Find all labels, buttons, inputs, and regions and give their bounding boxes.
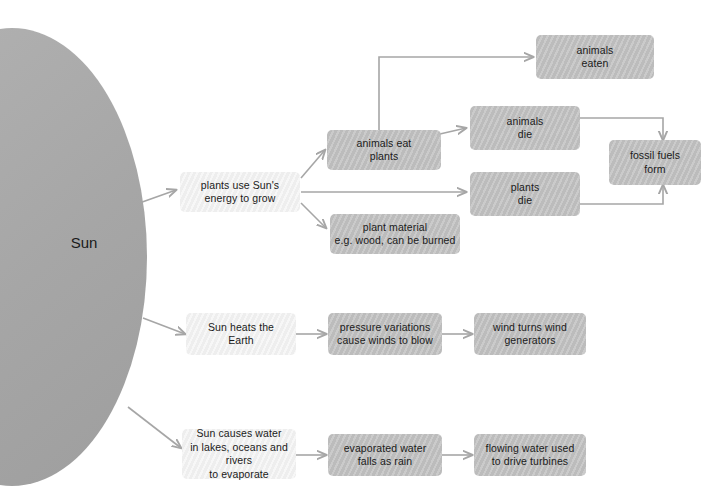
edge-sun-to-heats-earth <box>143 318 185 334</box>
node-animals-eat-plants-line1: animals eat <box>331 137 437 151</box>
node-evaporated-water-line1: evaporated water <box>332 442 438 456</box>
node-plants-die-line2: die <box>474 194 576 208</box>
node-flowing-water-line1: flowing water used <box>478 442 582 456</box>
node-fossil-fuels-form[interactable]: fossil fuels form <box>609 140 701 185</box>
node-animals-eat-plants[interactable]: animals eat plants <box>327 130 441 170</box>
node-animals-die-line1: animals <box>474 115 576 129</box>
sun-label: Sun <box>44 234 124 251</box>
node-plant-material[interactable]: plant material e.g. wood, can be burned <box>330 214 460 254</box>
node-evaporated-water-rain[interactable]: evaporated water falls as rain <box>328 434 442 476</box>
node-plants-die-line1: plants <box>474 181 576 195</box>
node-wind-turns-generators-line2: generators <box>478 334 582 348</box>
node-pressure-variations-line1: pressure variations <box>332 321 438 335</box>
edge-plants-to-plant-material <box>301 203 326 228</box>
node-evaporated-water-line2: falls as rain <box>332 455 438 469</box>
node-sun-heats-earth-line1: Sun heats the <box>190 321 292 335</box>
node-plant-material-line1: plant material <box>334 221 456 235</box>
node-sun-heats-earth[interactable]: Sun heats the Earth <box>186 313 296 355</box>
node-sun-heats-earth-line2: Earth <box>190 334 292 348</box>
edge-plants-die-to-fossil-fuels <box>580 185 663 204</box>
node-sun-causes-water-line3: to evaporate <box>186 468 292 482</box>
node-fossil-fuels-form-line2: form <box>613 163 697 177</box>
node-plants-use-suns-energy[interactable]: plants use Sun's energy to grow <box>180 172 300 212</box>
edge-plants-to-animals-eat <box>301 150 325 178</box>
node-pressure-variations-line2: cause winds to blow <box>332 334 438 348</box>
node-flowing-water-line2: to drive turbines <box>478 455 582 469</box>
edge-sun-to-water <box>128 407 181 448</box>
node-plants-use-suns-energy-line1: plants use Sun's <box>184 179 296 193</box>
node-flowing-water-turbines[interactable]: flowing water used to drive turbines <box>474 434 586 476</box>
node-pressure-variations[interactable]: pressure variations cause winds to blow <box>328 313 442 355</box>
node-animals-eat-plants-line2: plants <box>331 150 437 164</box>
energy-flow-diagram: Sun plants use Sun's energy to grow anim… <box>0 0 710 499</box>
node-animals-eaten-line1: animals <box>540 44 650 58</box>
node-wind-turns-generators-line1: wind turns wind <box>478 321 582 335</box>
node-plants-use-suns-energy-line2: energy to grow <box>184 192 296 206</box>
node-animals-eaten-line2: eaten <box>540 57 650 71</box>
node-sun-causes-water-line1: Sun causes water <box>186 427 292 441</box>
edge-animals-die-to-fossil-fuels <box>580 118 663 140</box>
node-animals-die[interactable]: animals die <box>470 106 580 150</box>
node-sun-causes-water-line2: in lakes, oceans and rivers <box>186 441 292 468</box>
node-animals-die-line2: die <box>474 128 576 142</box>
node-animals-eaten[interactable]: animals eaten <box>536 35 654 79</box>
node-wind-turns-generators[interactable]: wind turns wind generators <box>474 313 586 355</box>
node-fossil-fuels-form-line1: fossil fuels <box>613 149 697 163</box>
node-plants-die[interactable]: plants die <box>470 172 580 216</box>
node-sun-causes-water-evaporate[interactable]: Sun causes water in lakes, oceans and ri… <box>182 429 296 479</box>
node-plant-material-line2: e.g. wood, can be burned <box>334 234 456 248</box>
